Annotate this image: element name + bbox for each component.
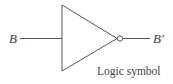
diagram-caption: Logic symbol <box>97 66 161 78</box>
inverter-triangle-icon <box>62 5 117 71</box>
output-label: B′ <box>153 32 164 45</box>
input-label: B <box>9 32 17 45</box>
inversion-bubble-icon <box>117 36 122 41</box>
inverter-diagram: B B′ Logic symbol <box>0 0 173 84</box>
